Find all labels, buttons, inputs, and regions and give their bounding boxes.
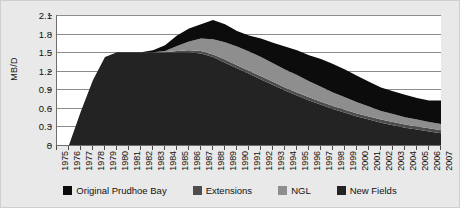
x-axis-tick-label: 1980 xyxy=(120,151,130,171)
x-axis-tick-label: 2007 xyxy=(444,151,454,171)
x-axis-tick-label: 1979 xyxy=(108,151,118,171)
x-axis-tick-mark xyxy=(332,146,333,150)
x-axis-tick-label: 1996 xyxy=(312,151,322,171)
y-axis-tick-mark xyxy=(48,71,52,72)
x-axis-tick-mark xyxy=(236,146,237,150)
plot-area xyxy=(56,15,441,146)
x-axis-tick-mark xyxy=(392,146,393,150)
x-axis-tick-mark xyxy=(248,146,249,150)
x-axis-tick-mark xyxy=(380,146,381,150)
y-axis-tick-label: 1.2 xyxy=(6,65,52,76)
x-axis-tick-mark xyxy=(92,146,93,150)
y-axis-tick-label: 1.5 xyxy=(6,47,52,58)
x-axis-tick-mark xyxy=(152,146,153,150)
x-axis-tick-label: 2005 xyxy=(420,151,430,171)
y-axis-tick-mark xyxy=(48,126,52,127)
x-axis-tick-label: 1995 xyxy=(300,151,310,171)
y-axis-tick-label: 2.1 xyxy=(6,10,52,21)
x-axis-tick-label: 1982 xyxy=(144,151,154,171)
x-axis-tick-mark xyxy=(404,146,405,150)
x-axis-tick-label: 1999 xyxy=(348,151,358,171)
y-axis-tick-mark xyxy=(48,145,52,146)
legend-item-label: Extensions xyxy=(206,185,252,196)
legend-item-label: New Fields xyxy=(350,185,397,196)
x-axis-tick-label: 2002 xyxy=(384,151,394,171)
y-axis-tick-mark xyxy=(48,108,52,109)
y-axis-tick-label: 1.8 xyxy=(6,28,52,39)
x-axis-tick-label: 2006 xyxy=(432,151,442,171)
x-axis-tick-mark xyxy=(200,146,201,150)
y-axis-tick-label: 0 xyxy=(6,140,52,151)
x-axis-tick-mark xyxy=(416,146,417,150)
legend-item[interactable]: New Fields xyxy=(337,185,397,196)
x-axis-tick-mark xyxy=(356,146,357,150)
x-axis-tick-label: 1989 xyxy=(228,151,238,171)
x-axis-tick-mark xyxy=(260,146,261,150)
x-axis-tick-label: 1983 xyxy=(156,151,166,171)
x-axis-tick-labels: 1975197619771978197919801981198219831984… xyxy=(56,147,440,179)
x-axis-tick-label: 1994 xyxy=(288,151,298,171)
y-axis-tick-mark xyxy=(48,34,52,35)
x-axis-tick-label: 1981 xyxy=(132,151,142,171)
legend-item-label: NGL xyxy=(291,185,311,196)
legend-item-label: Original Prudhoe Bay xyxy=(76,185,166,196)
x-axis-tick-label: 1997 xyxy=(324,151,334,171)
x-axis-tick-label: 2001 xyxy=(372,151,382,171)
x-axis-tick-mark xyxy=(224,146,225,150)
y-axis-tick-mark xyxy=(48,52,52,53)
x-axis-tick-label: 1978 xyxy=(96,151,106,171)
x-axis-tick-label: 2003 xyxy=(396,151,406,171)
x-axis-tick-label: 1998 xyxy=(336,151,346,171)
x-axis-tick-mark xyxy=(212,146,213,150)
legend-swatch-icon xyxy=(337,186,346,195)
x-axis-tick-mark xyxy=(116,146,117,150)
x-axis-tick-label: 1988 xyxy=(216,151,226,171)
x-axis-tick-label: 1986 xyxy=(192,151,202,171)
x-axis-tick-mark xyxy=(140,146,141,150)
chart-figure: MB/D 00.30.60.91.21.51.82.1 197519761977… xyxy=(0,0,460,208)
x-axis-tick-mark xyxy=(296,146,297,150)
y-axis-tick-mark xyxy=(48,89,52,90)
x-axis-tick-label: 1993 xyxy=(276,151,286,171)
x-axis-tick-label: 1977 xyxy=(84,151,94,171)
x-axis-tick-mark xyxy=(308,146,309,150)
x-axis-tick-label: 2004 xyxy=(408,151,418,171)
y-axis-tick-label: 0.9 xyxy=(6,84,52,95)
x-axis-tick-label: 1985 xyxy=(180,151,190,171)
y-axis-tick-label: 0.3 xyxy=(6,121,52,132)
x-axis-tick-mark xyxy=(164,146,165,150)
legend-item[interactable]: Extensions xyxy=(193,185,252,196)
chart-legend: Original Prudhoe BayExtensionsNGLNew Fie… xyxy=(16,182,444,198)
x-axis-tick-mark xyxy=(344,146,345,150)
x-axis-tick-label: 1990 xyxy=(240,151,250,171)
x-axis-tick-label: 1991 xyxy=(252,151,262,171)
y-axis-tick-label: 0.6 xyxy=(6,102,52,113)
x-axis-tick-mark xyxy=(188,146,189,150)
x-axis-tick-label: 1984 xyxy=(168,151,178,171)
x-axis-tick-label: 1975 xyxy=(60,151,70,171)
legend-item[interactable]: Original Prudhoe Bay xyxy=(63,185,166,196)
x-axis-tick-mark xyxy=(80,146,81,150)
x-axis-tick-mark xyxy=(128,146,129,150)
x-axis-tick-label: 2000 xyxy=(360,151,370,171)
y-axis-tick-labels: 00.30.60.91.21.51.82.1 xyxy=(0,15,52,145)
legend-swatch-icon xyxy=(63,186,72,195)
x-axis-tick-mark xyxy=(368,146,369,150)
x-axis-tick-mark xyxy=(68,146,69,150)
x-axis-tick-mark xyxy=(176,146,177,150)
x-axis-tick-label: 1976 xyxy=(72,151,82,171)
x-axis-tick-mark xyxy=(320,146,321,150)
legend-item[interactable]: NGL xyxy=(278,185,311,196)
x-axis-tick-mark xyxy=(56,146,57,150)
legend-swatch-icon xyxy=(278,186,287,195)
legend-swatch-icon xyxy=(193,186,202,195)
x-axis-tick-mark xyxy=(284,146,285,150)
x-axis-tick-mark xyxy=(428,146,429,150)
stacked-area-series xyxy=(57,15,441,145)
x-axis-tick-label: 1987 xyxy=(204,151,214,171)
x-axis-tick-mark xyxy=(104,146,105,150)
x-axis-tick-mark xyxy=(440,146,441,150)
x-axis-tick-label: 1992 xyxy=(264,151,274,171)
y-axis-tick-mark xyxy=(48,15,52,16)
x-axis-tick-mark xyxy=(272,146,273,150)
